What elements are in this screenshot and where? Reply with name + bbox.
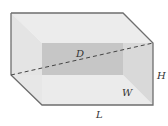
box-diagram: D H W L (0, 0, 168, 126)
label-height: H (156, 70, 166, 81)
label-width: W (122, 87, 133, 98)
label-diagonal: D (75, 48, 84, 59)
label-length: L (95, 109, 103, 120)
